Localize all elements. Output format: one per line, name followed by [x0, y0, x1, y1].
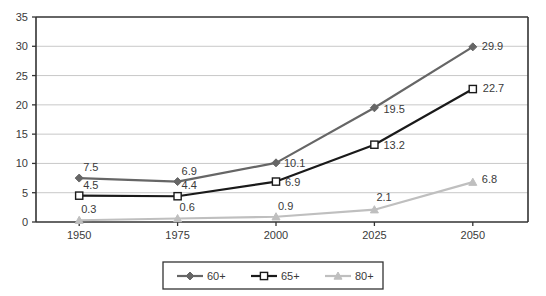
y-tick-label-30: 30: [16, 40, 28, 52]
data-label-80plus-2025: 2.1: [376, 191, 391, 203]
data-label-65plus-1950: 4.5: [83, 179, 98, 191]
y-tick-label-5: 5: [22, 187, 28, 199]
marker-65plus-2050: [469, 85, 476, 92]
data-label-80plus-1975: 0.6: [180, 201, 195, 213]
x-tick-label-1950: 1950: [67, 229, 91, 241]
marker-65plus-2000: [272, 178, 279, 185]
population-aging-line-chart: 05101520253035 19501975200020252050 7.56…: [0, 0, 546, 296]
data-label-60plus-1975: 6.9: [182, 165, 197, 177]
plot-area-background: [36, 17, 528, 222]
marker-65plus-1975: [174, 193, 181, 200]
marker-65plus-2025: [371, 141, 378, 148]
legend-label-65plus: 65+: [281, 270, 300, 282]
y-tick-label-10: 10: [16, 157, 28, 169]
data-label-65plus-1975: 4.4: [182, 179, 197, 191]
data-label-60plus-2025: 19.5: [383, 103, 404, 115]
y-tick-label-15: 15: [16, 128, 28, 140]
data-label-60plus-1950: 7.5: [83, 161, 98, 173]
legend-label-60plus: 60+: [207, 270, 226, 282]
legend-marker-65plus: [260, 272, 267, 279]
chart-container: 05101520253035 19501975200020252050 7.56…: [0, 0, 546, 296]
marker-65plus-1950: [76, 192, 83, 199]
data-label-65plus-2000: 6.9: [285, 176, 300, 188]
y-tick-label-35: 35: [16, 11, 28, 23]
legend-label-80plus: 80+: [355, 270, 374, 282]
x-tick-label-2000: 2000: [264, 229, 288, 241]
x-tick-label-1975: 1975: [165, 229, 189, 241]
data-label-60plus-2000: 10.1: [284, 157, 305, 169]
data-label-80plus-2050: 6.8: [482, 173, 497, 185]
data-label-65plus-2050: 22.7: [483, 82, 504, 94]
data-label-80plus-2000: 0.9: [278, 200, 293, 212]
y-tick-label-0: 0: [22, 216, 28, 228]
y-tick-label-20: 20: [16, 99, 28, 111]
y-tick-label-25: 25: [16, 70, 28, 82]
data-label-80plus-1950: 0.3: [81, 203, 96, 215]
x-tick-label-2050: 2050: [461, 229, 485, 241]
data-label-60plus-2050: 29.9: [482, 40, 503, 52]
legend: 60+65+80+: [163, 262, 383, 289]
x-tick-label-2025: 2025: [362, 229, 386, 241]
data-label-65plus-2025: 13.2: [383, 139, 404, 151]
